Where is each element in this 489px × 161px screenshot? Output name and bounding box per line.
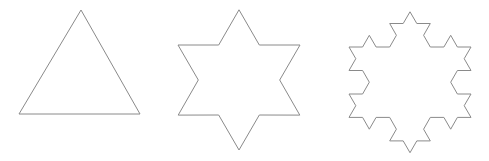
koch-iteration-1-star: [178, 10, 300, 150]
koch-iteration-2-snowflake: [349, 12, 471, 153]
koch-snowflake-diagram: [0, 0, 489, 161]
koch-iteration-0-triangle: [19, 10, 140, 114]
